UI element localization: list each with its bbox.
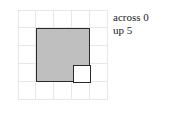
grid-cell xyxy=(72,82,90,100)
grid-cell xyxy=(90,46,108,64)
grid-cell xyxy=(72,10,90,28)
label-block: across 0 up 5 xyxy=(113,11,170,37)
grid-cell xyxy=(18,64,36,82)
grid-cell xyxy=(36,82,54,100)
grid-cell xyxy=(54,10,72,28)
grid-cell xyxy=(18,46,36,64)
grid-cell xyxy=(36,10,54,28)
grid-wrapper xyxy=(18,10,108,100)
grid-cell xyxy=(90,28,108,46)
grid-cell xyxy=(54,82,72,100)
inner-white-square xyxy=(73,65,91,83)
up-label: up 5 xyxy=(113,24,170,37)
shaded-square xyxy=(36,28,90,82)
grid-cell xyxy=(90,10,108,28)
grid-cell xyxy=(18,82,36,100)
grid-cell xyxy=(18,28,36,46)
across-label: across 0 xyxy=(113,11,170,24)
figure-root: across 0 up 5 xyxy=(0,0,170,115)
grid-cell xyxy=(90,82,108,100)
grid-cell xyxy=(18,10,36,28)
grid-cell xyxy=(90,64,108,82)
